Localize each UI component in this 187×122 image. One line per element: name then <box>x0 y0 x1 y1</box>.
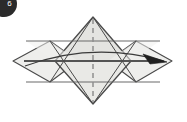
figure-root: 6 <box>0 0 187 122</box>
step-number-label: 6 <box>0 0 17 8</box>
origami-fold-diagram <box>0 0 187 122</box>
